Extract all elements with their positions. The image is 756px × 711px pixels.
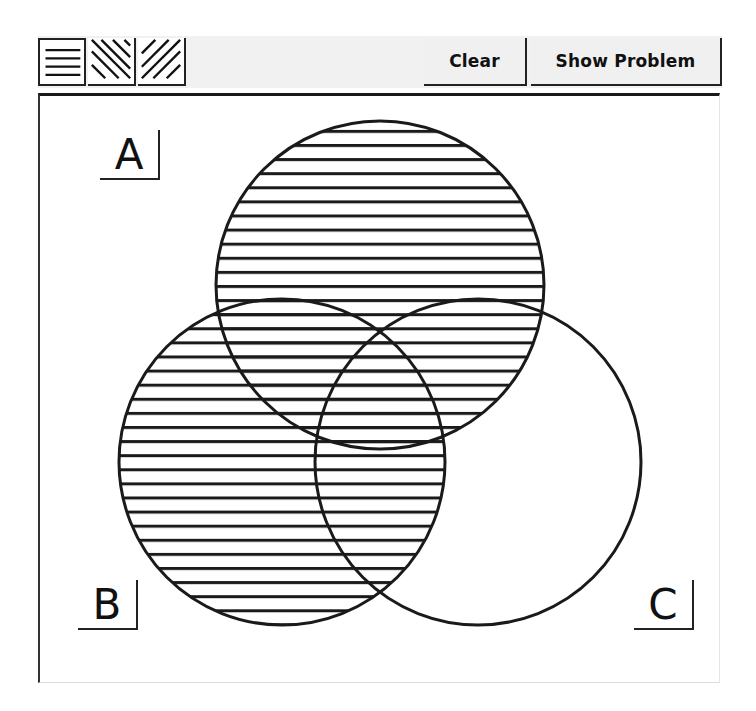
set-label-c[interactable]: C bbox=[634, 580, 694, 630]
set-label-b[interactable]: B bbox=[78, 580, 138, 630]
horizontal-hatch-icon bbox=[40, 40, 84, 84]
venn-diagram-panel[interactable] bbox=[38, 93, 720, 683]
horizontal-pattern-button[interactable] bbox=[38, 38, 86, 86]
diagonal-slash-hatch-icon bbox=[138, 38, 184, 84]
diagonal-backslash-hatch-icon bbox=[88, 38, 134, 84]
clear-button[interactable]: Clear bbox=[424, 38, 527, 86]
diagonal-slash-pattern-button[interactable] bbox=[138, 38, 186, 86]
show-problem-button[interactable]: Show Problem bbox=[531, 38, 722, 86]
diagonal-backslash-pattern-button[interactable] bbox=[88, 38, 136, 86]
set-label-a[interactable]: A bbox=[100, 130, 160, 180]
